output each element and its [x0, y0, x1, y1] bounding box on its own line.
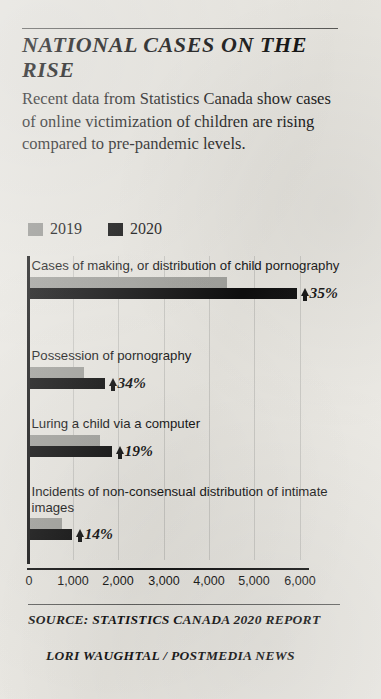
legend-label-2019: 2019 [50, 220, 82, 238]
delta-annotation: 19% [116, 442, 153, 460]
chart-legend: 2019 2020 [28, 220, 162, 238]
bar-chart: Cases of making, or distribution of chil… [22, 252, 352, 570]
up-arrow-icon [116, 446, 124, 454]
delta-value: 34% [118, 374, 146, 392]
legend-label-2020: 2020 [130, 220, 162, 238]
delta-annotation: 34% [109, 374, 146, 392]
bar-2020 [30, 529, 72, 540]
bar-group-label: Luring a child via a computer [30, 416, 353, 432]
x-tick-6000: 6,000 [284, 574, 315, 588]
x-tick-2000: 2,000 [102, 574, 133, 588]
bar-group-label: Incidents of non-consensual distribution… [30, 484, 353, 515]
delta-annotation: 35% [301, 284, 338, 302]
bar-group-label: Possession of pornography [30, 348, 353, 364]
bar-row-2019 [30, 367, 353, 378]
infographic-inner: NATIONAL CASES ON THE RISE Recent data f… [22, 0, 362, 699]
source-note: SOURCE: STATISTICS CANADA 2020 REPORT [28, 612, 348, 627]
delta-value: 19% [125, 442, 153, 460]
bar-row-2020: 34% [30, 378, 353, 389]
bar-group-label: Cases of making, or distribution of chil… [30, 258, 353, 274]
bar-group: Luring a child via a computer 19% [30, 416, 353, 457]
infographic-page: NATIONAL CASES ON THE RISE Recent data f… [0, 0, 381, 699]
delta-value: 14% [85, 525, 113, 543]
bar-group: Incidents of non-consensual distribution… [30, 484, 353, 540]
bar-2019 [30, 435, 100, 446]
top-divider [22, 28, 338, 29]
x-axis-ticks: 0 1,000 2,000 3,000 4,000 5,000 6,000 [22, 574, 352, 594]
delta-value: 35% [310, 284, 338, 302]
page-title: NATIONAL CASES ON THE RISE [22, 32, 342, 82]
delta-annotation: 14% [76, 525, 113, 543]
bar-2020 [30, 288, 297, 299]
credit-line: LORI WAUGHTAL / POSTMEDIA NEWS [46, 648, 356, 664]
bar-2020 [30, 378, 105, 389]
bar-2019 [30, 518, 62, 529]
up-arrow-icon [109, 378, 117, 386]
up-arrow-icon [301, 288, 309, 296]
up-arrow-icon [76, 529, 84, 537]
x-tick-0: 0 [26, 574, 33, 588]
legend-swatch-2019 [28, 223, 43, 236]
bar-row-2020: 14% [30, 529, 353, 540]
bar-2019 [30, 367, 84, 378]
x-tick-4000: 4,000 [193, 574, 224, 588]
subtitle-deck: Recent data from Statistics Canada show … [22, 88, 342, 156]
legend-swatch-2020 [108, 223, 123, 236]
bar-row-2020: 35% [30, 288, 353, 299]
x-tick-5000: 5,000 [238, 574, 269, 588]
bar-group: Possession of pornography 34% [30, 348, 353, 389]
x-tick-1000: 1,000 [57, 574, 88, 588]
x-axis-line [27, 568, 309, 570]
bar-row-2020: 19% [30, 446, 353, 457]
bar-2020 [30, 446, 112, 457]
bar-2019 [30, 277, 227, 288]
x-tick-3000: 3,000 [148, 574, 179, 588]
bar-group: Cases of making, or distribution of chil… [30, 258, 353, 299]
bottom-divider [28, 604, 340, 605]
legend-item-2019: 2019 [28, 220, 82, 238]
bar-row-2019 [30, 435, 353, 446]
legend-item-2020: 2020 [108, 220, 162, 238]
